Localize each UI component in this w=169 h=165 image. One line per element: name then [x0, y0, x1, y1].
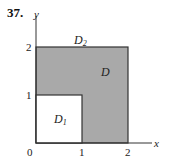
problem-number: 37.	[7, 5, 23, 20]
region-d2-label: D2	[73, 33, 87, 48]
y-tick-2: 2	[26, 41, 32, 53]
y-tick-1: 1	[26, 89, 32, 101]
origin-label: 0	[27, 146, 33, 158]
y-axis-label: y	[33, 8, 39, 20]
region-diagram: 37. y x 2 1 0 1 2 D2 D D1	[0, 0, 169, 165]
x-axis-label: x	[153, 137, 159, 149]
region-d-label: D	[100, 65, 110, 79]
x-tick-1: 1	[79, 146, 85, 158]
x-tick-2: 2	[125, 146, 131, 158]
